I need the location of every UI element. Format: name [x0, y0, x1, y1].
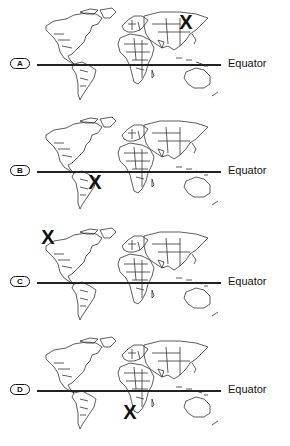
- equator-label: Equator: [228, 383, 267, 395]
- world-map: [40, 113, 230, 218]
- x-marker-icon: X: [123, 402, 136, 422]
- option-d-panel[interactable]: D Equator X: [0, 330, 290, 440]
- equator-line: [37, 171, 221, 173]
- equator-label: Equator: [228, 57, 267, 69]
- option-b-panel[interactable]: B Equator X: [0, 110, 290, 220]
- equator-line: [37, 282, 221, 284]
- x-marker-icon: X: [179, 12, 192, 32]
- equator-label: Equator: [228, 164, 267, 176]
- option-c-badge[interactable]: C: [10, 276, 30, 287]
- option-a-panel[interactable]: A Equator X: [0, 0, 290, 110]
- equator-line: [37, 390, 221, 392]
- equator-line: [37, 64, 221, 66]
- world-map: [40, 4, 230, 109]
- option-c-panel[interactable]: C Equator X: [0, 220, 290, 330]
- option-d-badge[interactable]: D: [10, 384, 30, 395]
- x-marker-icon: X: [41, 227, 54, 247]
- option-a-badge[interactable]: A: [10, 58, 30, 69]
- world-map: [40, 224, 230, 329]
- option-b-badge[interactable]: B: [10, 165, 30, 176]
- equator-label: Equator: [228, 275, 267, 287]
- x-marker-icon: X: [88, 172, 101, 192]
